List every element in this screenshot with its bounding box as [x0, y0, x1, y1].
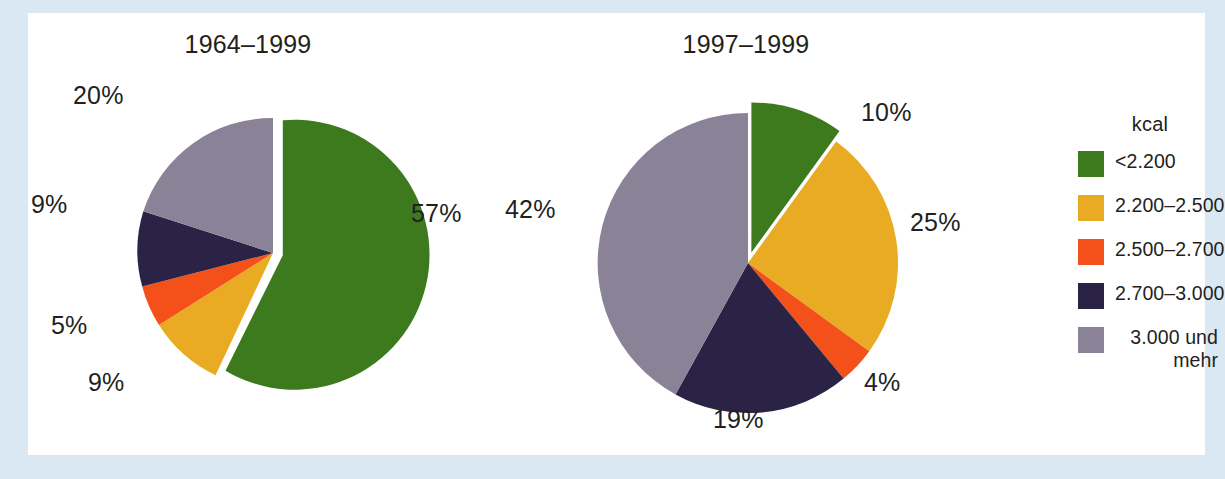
pie-slices-right: [598, 103, 898, 414]
legend-item-2200-2500[interactable]: 2.200–2.500: [1078, 194, 1225, 238]
legend-label-lt-2200: <2.200: [1115, 150, 1176, 173]
pct-label-orange-left: 5%: [51, 311, 88, 340]
pct-label-amber-right: 25%: [910, 208, 961, 237]
pct-label-gray-right: 42%: [505, 195, 556, 224]
legend-label-2700-3000: 2.700–3.000: [1115, 282, 1225, 305]
legend-item-2700-3000[interactable]: 2.700–3.000: [1078, 282, 1225, 326]
legend-label-2200-2500: 2.200–2.500: [1115, 194, 1225, 217]
chart-title-left: 1964–1999: [138, 30, 358, 59]
pct-label-orange-right: 4%: [864, 368, 901, 397]
chart-title-right: 1997–1999: [636, 30, 856, 59]
legend: kcal <2.200 2.200–2.500 2.500–2.700 2.70…: [1078, 113, 1225, 370]
legend-item-lt-2200[interactable]: <2.200: [1078, 150, 1225, 194]
legend-swatch-gray: [1078, 327, 1104, 353]
pie-slices-left: [137, 118, 429, 390]
pie-svg-left: [88, 73, 488, 423]
legend-label-2500-2700: 2.500–2.700: [1115, 238, 1225, 261]
chart-panel: 1964–1999 57% 20% 9% 5% 9% 1997–1999: [28, 13, 1205, 455]
pie-chart-1997-1999: 1997–1999 10% 25% 4% 19% 42%: [528, 13, 1048, 455]
legend-swatch-orange: [1078, 239, 1104, 265]
pct-label-gray-left: 20%: [73, 81, 124, 110]
legend-label-3000-und-mehr: 3.000 und mehr: [1115, 326, 1218, 372]
pct-label-green-left: 57%: [411, 199, 462, 228]
pct-label-green-right: 10%: [861, 98, 912, 127]
legend-item-3000-und-mehr[interactable]: 3.000 und mehr: [1078, 326, 1225, 370]
legend-swatch-green: [1078, 151, 1104, 177]
legend-title: kcal: [1086, 113, 1214, 136]
legend-swatch-amber: [1078, 195, 1104, 221]
pct-label-navy-right: 19%: [713, 405, 764, 434]
pct-label-navy-left: 9%: [31, 190, 68, 219]
pie-chart-1964-1999: 1964–1999 57% 20% 9% 5% 9%: [28, 13, 548, 455]
legend-swatch-navy: [1078, 283, 1104, 309]
pct-label-amber-left: 9%: [88, 368, 125, 397]
legend-item-2500-2700[interactable]: 2.500–2.700: [1078, 238, 1225, 282]
